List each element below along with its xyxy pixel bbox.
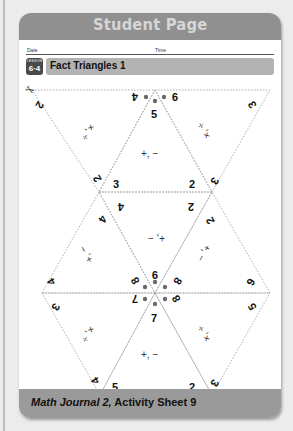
tl-number-a: 2 <box>33 99 46 110</box>
bc-number-left: 5 <box>112 381 118 389</box>
bl-operations: ×, ÷ <box>79 324 97 345</box>
triangle-top-center <box>99 90 212 192</box>
scissors-icon: ✂ <box>23 82 37 97</box>
triangle-middle-right <box>155 192 270 293</box>
br-operations: ×, ÷ <box>194 323 212 344</box>
ml-number-b: 4 <box>44 276 58 288</box>
bl-number-a: 3 <box>49 301 62 312</box>
tc-number-left: 3 <box>113 178 119 190</box>
ml-number-a: 4 <box>96 213 110 225</box>
mr-number-c: 8 <box>171 275 184 286</box>
tc-number-right: 2 <box>189 178 195 190</box>
mr-number-b: 6 <box>244 276 257 287</box>
mr-operations: +, − <box>195 243 213 264</box>
student-page-card: Student Page Date Time LESSON 6·4 Fact T… <box>19 13 281 418</box>
triangle-top-left <box>32 90 155 192</box>
mc-operations: +, − <box>148 233 165 244</box>
source-journal: Math Journal 2, <box>31 396 112 408</box>
source-sheet: Activity Sheet 9 <box>112 396 197 408</box>
tl-operations: ×, ÷ <box>79 122 97 143</box>
br-number-b: 3 <box>208 377 221 388</box>
bl-number-c: 7 <box>132 293 138 305</box>
fact-triangles-figure: ✂ 2 4 2 ×, ÷ 5 3 2 +, − 9 3 <box>19 13 281 389</box>
page-edge-rule <box>3 0 5 431</box>
ml-number-c: 8 <box>128 275 141 286</box>
bl-number-b: 4 <box>88 375 102 387</box>
tl-number-c: 4 <box>131 91 138 103</box>
source-footer: Math Journal 2, Activity Sheet 9 <box>19 389 281 418</box>
tr-operations: ×, ÷ <box>194 120 212 141</box>
bc-number-right: 2 <box>189 381 195 389</box>
bc-operations: +, − <box>141 349 158 360</box>
bc-number-top: 7 <box>151 312 157 324</box>
tr-number-b: 3 <box>208 175 221 186</box>
br-number-a: 5 <box>245 301 258 312</box>
source-citation: Math Journal 2, Activity Sheet 9 <box>31 396 196 408</box>
tr-number-a: 3 <box>245 99 258 110</box>
triangle-bottom-center <box>100 293 212 389</box>
mr-number-a: 2 <box>203 215 216 226</box>
ml-operations: +, − <box>77 244 95 265</box>
tr-number-c: 9 <box>172 91 178 103</box>
mc-number-right: 2 <box>188 201 194 213</box>
br-number-c: 8 <box>169 293 182 304</box>
tc-number-top: 5 <box>151 108 157 120</box>
mc-number-bottom: 9 <box>152 269 158 281</box>
tc-operations: +, − <box>141 148 158 159</box>
mc-number-left: 4 <box>117 201 124 213</box>
tl-number-b: 2 <box>90 173 103 184</box>
